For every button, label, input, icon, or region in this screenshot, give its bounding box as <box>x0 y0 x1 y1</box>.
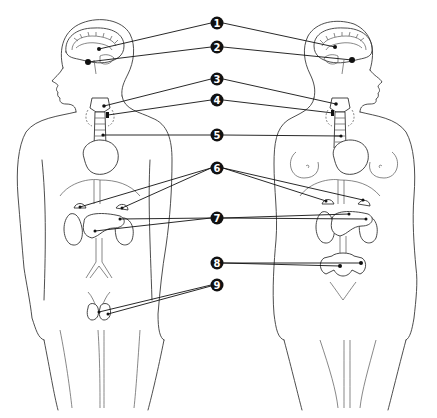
svg-text:4: 4 <box>214 95 221 106</box>
diagram-canvas: 1 2 3 4 5 6 7 8 9 <box>0 0 437 418</box>
female-uterus-ovaries <box>320 253 365 300</box>
male-heart <box>83 140 118 174</box>
endocrine-diagram: 1 2 3 4 5 6 7 8 9 <box>0 0 437 418</box>
callout-badge-4: 4 <box>211 94 224 107</box>
svg-text:2: 2 <box>214 42 221 53</box>
callout-badge-9: 9 <box>211 279 224 292</box>
svg-text:9: 9 <box>214 280 221 291</box>
male-testes <box>87 292 110 320</box>
female-heart <box>333 140 368 174</box>
svg-text:8: 8 <box>214 258 221 269</box>
svg-text:6: 6 <box>214 163 221 174</box>
svg-text:1: 1 <box>214 18 221 29</box>
callout-badge-6: 6 <box>211 162 224 175</box>
callout-badge-2: 2 <box>211 41 224 54</box>
svg-text:7: 7 <box>214 213 221 224</box>
male-figure <box>17 20 172 410</box>
callout-badge-5: 5 <box>211 129 224 142</box>
callout-badge-3: 3 <box>211 73 224 86</box>
svg-text:3: 3 <box>214 74 221 85</box>
callout-badge-7: 7 <box>211 212 224 225</box>
svg-text:5: 5 <box>214 130 221 141</box>
callout-badge-1: 1 <box>211 17 224 30</box>
callout-badge-8: 8 <box>211 257 224 270</box>
female-brain <box>314 28 372 74</box>
male-brain <box>66 28 124 74</box>
